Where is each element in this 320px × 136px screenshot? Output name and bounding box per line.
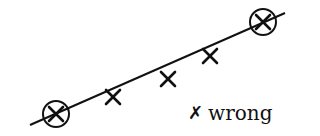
cross-marker-icon	[106, 90, 120, 104]
cross-marker-icon	[203, 49, 217, 63]
legend: ✗ wrong	[188, 103, 273, 123]
cross-marker-icon	[161, 72, 175, 86]
cross-marker-icon	[256, 15, 270, 29]
legend-label: wrong	[208, 103, 272, 123]
cross-mark-icon: ✗	[188, 104, 203, 122]
cross-marker-icon	[49, 107, 63, 121]
